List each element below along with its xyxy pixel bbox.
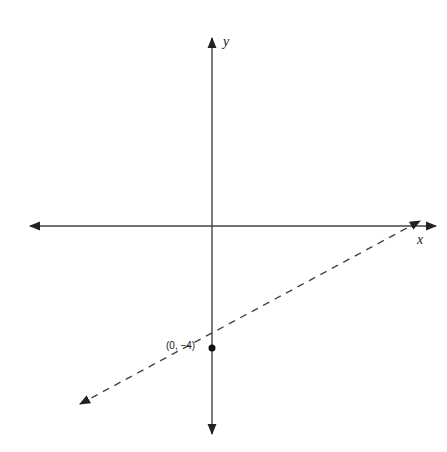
y-axis-label: y bbox=[221, 34, 230, 49]
point-marker bbox=[209, 345, 216, 352]
x-axis-label: x bbox=[416, 232, 424, 247]
coordinate-plane: (0, −4) y x bbox=[0, 0, 447, 452]
point-label: (0, −4) bbox=[166, 340, 195, 351]
dashed-line bbox=[80, 221, 420, 404]
